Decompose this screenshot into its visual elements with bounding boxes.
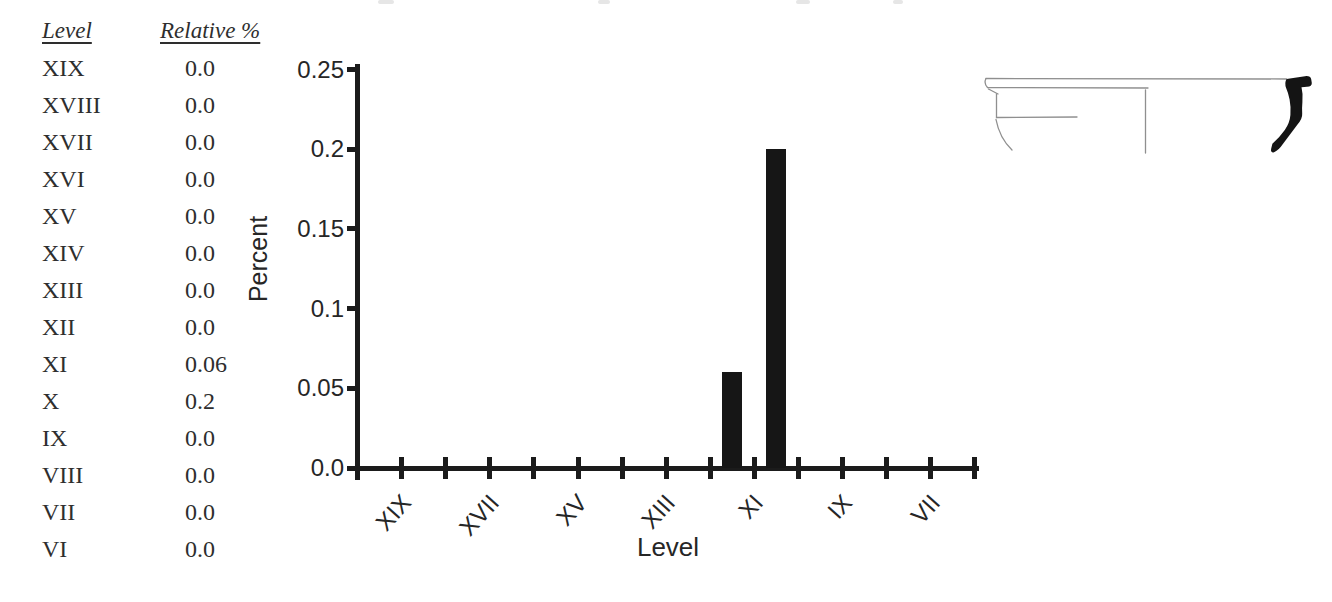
x-tick	[972, 457, 977, 479]
x-tick	[796, 457, 801, 479]
y-tick	[347, 306, 360, 311]
x-tick-label: VII	[905, 489, 945, 530]
x-tick	[531, 457, 536, 479]
y-tick	[347, 226, 360, 231]
rim-outline	[985, 79, 1286, 154]
y-tick	[347, 147, 360, 152]
x-tick-label: XVII	[453, 489, 504, 541]
x-tick	[664, 457, 669, 479]
bar	[722, 372, 742, 468]
x-tick	[884, 457, 889, 479]
x-tick-label: XV	[551, 489, 593, 532]
x-tick	[399, 457, 404, 479]
y-tick-label: 0.15	[272, 216, 344, 242]
x-tick	[620, 457, 625, 479]
x-tick	[840, 457, 845, 479]
x-tick-label: XI	[733, 489, 769, 525]
x-tick-label: XIII	[636, 489, 681, 535]
rim-cross-section	[1271, 76, 1312, 152]
x-tick	[443, 457, 448, 479]
x-tick	[576, 457, 581, 479]
bar	[766, 149, 786, 468]
y-axis-title: Percent	[244, 216, 273, 302]
y-tick-label: 0.25	[272, 57, 344, 83]
y-axis	[355, 64, 360, 480]
y-tick-label: 0.2	[272, 136, 344, 162]
x-tick-label: XIX	[370, 489, 417, 536]
x-axis-title: Level	[637, 532, 699, 563]
x-tick-label: IX	[821, 489, 857, 525]
y-tick-label: 0.0	[272, 455, 344, 481]
y-tick-label: 0.1	[272, 296, 344, 322]
y-tick	[347, 67, 360, 72]
x-tick	[752, 457, 757, 479]
x-tick	[487, 457, 492, 479]
y-tick-label: 0.05	[272, 375, 344, 401]
x-tick	[708, 457, 713, 479]
x-tick	[355, 457, 360, 479]
x-tick	[928, 457, 933, 479]
y-tick	[347, 386, 360, 391]
ceramic-rim-profile-drawing	[960, 50, 1332, 180]
